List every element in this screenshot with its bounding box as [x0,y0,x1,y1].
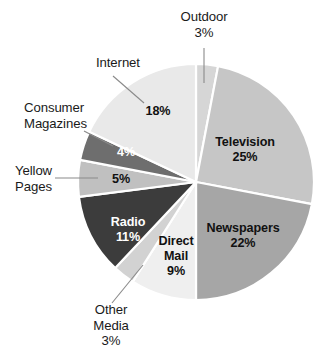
external-label-consumer-magazines-line1: Consumer [24,100,87,116]
external-label-consumer-magazines: Consumer Magazines [24,100,87,131]
label-direct-mail-value: 9% [167,264,185,278]
external-label-other-media-line1: Other [83,302,139,318]
external-label-outdoor-name: Outdoor [173,9,235,25]
label-direct-mail-line2: Mail [164,249,188,263]
label-newspapers-value: 22% [231,236,256,250]
label-radio-value: 11% [116,230,140,244]
external-label-other-media-value: 3% [83,333,139,349]
external-label-yellow-pages: Yellow Pages [15,163,52,194]
label-television-value: 25% [233,150,258,164]
external-label-outdoor: Outdoor 3% [173,9,235,40]
pie-chart: Television 25% Newspapers 22% Direct Mai… [0,0,327,351]
external-label-outdoor-value: 3% [173,25,235,41]
external-label-internet-name: Internet [96,55,140,71]
external-label-yellow-pages-line2: Pages [15,179,52,195]
external-label-other-media-line2: Media [83,318,139,334]
label-direct-mail-line1: Direct [158,234,194,248]
external-label-other-media: Other Media 3% [83,302,139,349]
label-newspapers-name: Newspapers [206,221,279,235]
label-internet-value: 18% [146,104,171,118]
external-label-internet: Internet [96,55,140,71]
label-consumer-magazines-value: 4% [117,145,135,159]
label-yellow-pages-value: 5% [112,172,130,186]
label-television-name: Television [215,135,275,149]
label-radio-name: Radio [111,215,146,229]
external-label-consumer-magazines-line2: Magazines [24,116,87,132]
external-label-yellow-pages-line1: Yellow [15,163,52,179]
